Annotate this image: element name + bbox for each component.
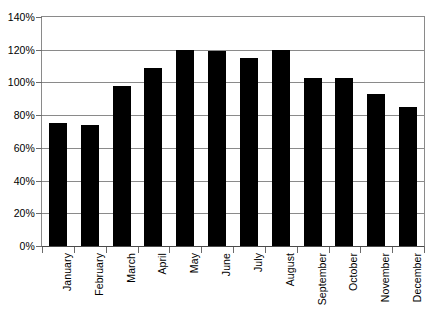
x-axis-tick-label-text: April bbox=[157, 253, 168, 275]
bar-slot bbox=[169, 17, 201, 246]
bars-layer bbox=[42, 17, 424, 246]
bar[interactable] bbox=[81, 125, 99, 246]
x-axis-tick-label-text: December bbox=[412, 253, 423, 302]
x-axis-tick-label-text: July bbox=[253, 253, 264, 272]
bar[interactable] bbox=[176, 50, 194, 246]
y-axis-tick-label: 100% bbox=[0, 77, 35, 87]
x-axis-tick-label-text: June bbox=[221, 253, 232, 276]
bar-slot bbox=[360, 17, 392, 246]
bar[interactable] bbox=[144, 68, 162, 246]
bar[interactable] bbox=[304, 78, 322, 246]
x-axis-tick-label-text: August bbox=[285, 253, 296, 286]
x-axis-tick-label-text: May bbox=[189, 253, 200, 273]
x-axis-tick-label-text: October bbox=[348, 253, 359, 291]
bar[interactable] bbox=[335, 78, 353, 246]
x-axis-tick-label-text: September bbox=[317, 253, 328, 305]
x-axis-tick-mark bbox=[424, 247, 425, 253]
bar-slot bbox=[138, 17, 170, 246]
x-axis-labels: JanuaryFebruaryMarchAprilMayJuneJulyAugu… bbox=[42, 253, 424, 314]
y-axis-tick-label: 120% bbox=[0, 45, 35, 55]
bar[interactable] bbox=[240, 58, 258, 246]
bar-slot bbox=[74, 17, 106, 246]
bar-slot bbox=[106, 17, 138, 246]
y-axis-tick-label: 20% bbox=[0, 208, 35, 218]
x-axis-tick-label-text: November bbox=[380, 253, 391, 302]
y-axis-tick-label: 60% bbox=[0, 143, 35, 153]
y-axis-tick-label: 40% bbox=[0, 176, 35, 186]
bar-slot bbox=[297, 17, 329, 246]
bar-slot bbox=[233, 17, 265, 246]
bar[interactable] bbox=[113, 86, 131, 246]
bar[interactable] bbox=[399, 107, 417, 246]
x-axis-tick-label-text: March bbox=[126, 253, 137, 283]
bar-chart: 0%20%40%60%80%100%120%140% JanuaryFebrua… bbox=[0, 0, 434, 314]
bar-slot bbox=[42, 17, 74, 246]
x-axis-tick-label-text: January bbox=[62, 253, 73, 291]
y-axis-tick-label: 80% bbox=[0, 110, 35, 120]
bar-slot bbox=[329, 17, 361, 246]
y-axis-tick-label: 140% bbox=[0, 12, 35, 22]
y-axis-tick-label: 0% bbox=[0, 241, 35, 251]
bar[interactable] bbox=[49, 123, 67, 246]
bar[interactable] bbox=[208, 51, 226, 246]
bar-slot bbox=[201, 17, 233, 246]
x-axis-tick-label-text: February bbox=[94, 253, 105, 296]
bar[interactable] bbox=[367, 94, 385, 246]
bar-slot bbox=[392, 17, 424, 246]
bar-slot bbox=[265, 17, 297, 246]
bar[interactable] bbox=[272, 50, 290, 246]
